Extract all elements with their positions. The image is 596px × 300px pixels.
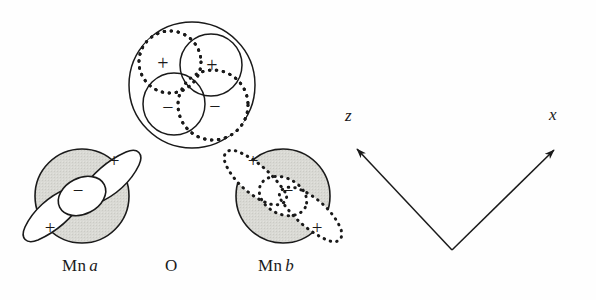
oxygen-sign-upper-left: + [157,52,168,74]
label-mn-b-element: Mn [258,256,282,275]
label-mn-b: Mnb [258,256,294,276]
mn-a-sign-center: − [73,180,84,201]
label-oxygen-element: O [165,256,178,275]
diagram-canvas: + + − − + − + + − + [0,0,596,300]
oxygen-sign-upper-right: + [206,54,217,76]
atom-mn-b: + − + [224,149,342,243]
orbital-diagram-figure: + + − − + − + + − + [0,0,596,300]
mn-a-sign-upper-right: + [109,150,120,171]
atom-mn-a: + − + [23,149,141,243]
z-axis-arrow [357,149,452,250]
axis-label-x: x [549,105,557,125]
axis-indicator [357,149,554,250]
label-mn-a: Mna [62,256,98,276]
label-mn-a-element: Mn [62,256,86,275]
label-oxygen: O [165,256,178,276]
oxygen-sign-lower-right: − [209,95,220,117]
mn-b-sign-lower-right: + [312,217,323,238]
axis-label-z: z [345,106,352,126]
mn-b-sign-upper-left: + [248,150,259,171]
atom-oxygen: + + − − [129,22,255,148]
oxygen-sign-lower-left: − [162,96,173,118]
x-axis-arrow [452,150,554,250]
mn-b-sign-center: − [283,180,294,201]
label-mn-b-index: b [282,256,294,275]
label-mn-a-index: a [86,256,98,275]
mn-a-sign-lower-left: + [45,217,56,238]
